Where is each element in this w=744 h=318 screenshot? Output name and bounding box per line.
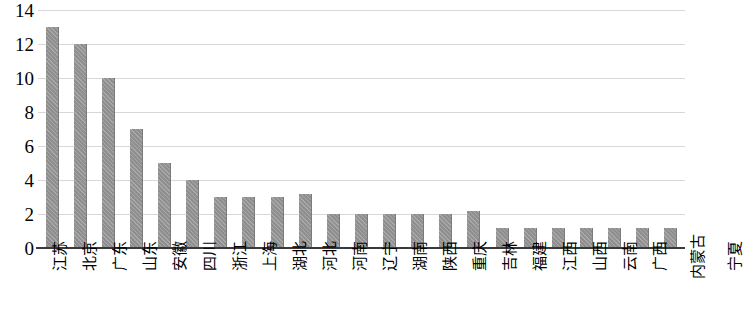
bar-slot [122, 10, 150, 248]
bar-slot [404, 10, 432, 248]
x-label-slot: 广东 [98, 252, 128, 318]
bar-slot [319, 10, 347, 248]
x-label-slot: 安徽 [158, 252, 188, 318]
bar-slot [544, 10, 572, 248]
x-axis-tick-label: 湖南 [413, 241, 428, 271]
bar-slot [376, 10, 404, 248]
bar-slot [572, 10, 600, 248]
x-axis-tick-label: 河南 [353, 241, 368, 271]
x-axis-tick-label: 宁夏 [728, 241, 743, 271]
bar [46, 27, 59, 248]
x-label-slot: 浙江 [218, 252, 248, 318]
x-label-slot: 云南 [608, 252, 638, 318]
bar [102, 78, 115, 248]
x-label-slot: 河北 [308, 252, 338, 318]
x-axis-tick-label: 山西 [593, 241, 608, 271]
x-label-slot: 陕西 [428, 252, 458, 318]
x-axis-tick-label: 湖北 [293, 241, 308, 271]
x-axis-tick-label: 上海 [263, 241, 278, 271]
bar-slot [207, 10, 235, 248]
bars-container [38, 10, 685, 248]
bar [74, 44, 87, 248]
x-label-slot: 内蒙古 [668, 252, 713, 318]
x-axis-tick-label: 安徽 [173, 241, 188, 271]
x-axis-labels: 江苏北京广东山东安徽四川浙江上海湖北河北河南辽宁湖南陕西重庆吉林福建江西山西云南… [38, 252, 685, 318]
y-axis-tick-label: 0 [25, 239, 35, 258]
x-label-slot: 江西 [548, 252, 578, 318]
x-label-slot: 上海 [248, 252, 278, 318]
x-label-slot: 吉林 [488, 252, 518, 318]
x-axis-tick-label: 广东 [113, 241, 128, 271]
x-label-slot: 北京 [68, 252, 98, 318]
x-label-slot: 山东 [128, 252, 158, 318]
bar-slot [151, 10, 179, 248]
y-axis-tick-label: 6 [25, 137, 35, 156]
x-label-slot: 福建 [518, 252, 548, 318]
bar-slot [179, 10, 207, 248]
x-axis-tick-label: 浙江 [233, 241, 248, 271]
x-label-slot: 江苏 [38, 252, 68, 318]
bar-slot [516, 10, 544, 248]
x-axis-tick-label: 江西 [563, 241, 578, 271]
bar-slot [347, 10, 375, 248]
x-label-slot: 湖南 [398, 252, 428, 318]
bar-slot [488, 10, 516, 248]
x-axis-tick-label: 河北 [323, 241, 338, 271]
y-axis-tick-label: 2 [25, 205, 35, 224]
x-axis-tick-label: 吉林 [503, 241, 518, 271]
y-axis-tick-label: 14 [15, 1, 34, 20]
x-axis-tick-label: 重庆 [473, 241, 488, 271]
bar [608, 228, 621, 248]
x-label-slot: 辽宁 [368, 252, 398, 318]
x-label-slot: 湖北 [278, 252, 308, 318]
bar-slot [94, 10, 122, 248]
y-axis: 02468101214 [0, 0, 34, 248]
bar-slot [263, 10, 291, 248]
x-axis-tick-label: 辽宁 [383, 241, 398, 271]
bar-slot [38, 10, 66, 248]
bar-slot [629, 10, 657, 248]
y-axis-tick-label: 4 [25, 171, 35, 190]
x-axis-tick-label: 云南 [623, 241, 638, 271]
x-label-slot: 四川 [188, 252, 218, 318]
bar-slot [657, 10, 685, 248]
x-axis-tick-label: 广西 [653, 241, 668, 271]
y-axis-tick-label: 10 [15, 69, 34, 88]
x-axis-tick-label: 四川 [203, 241, 218, 271]
x-label-slot: 广西 [638, 252, 668, 318]
x-label-slot: 宁夏 [713, 252, 743, 318]
x-axis-tick-label: 内蒙古 [691, 234, 706, 279]
bar-slot [235, 10, 263, 248]
x-label-slot: 重庆 [458, 252, 488, 318]
bar-slot [291, 10, 319, 248]
x-axis-tick-label: 山东 [143, 241, 158, 271]
x-label-slot: 山西 [578, 252, 608, 318]
bar [130, 129, 143, 248]
bar-slot [432, 10, 460, 248]
bar [158, 163, 171, 248]
x-axis-tick-label: 北京 [83, 241, 98, 271]
x-axis-tick-label: 陕西 [443, 241, 458, 271]
y-axis-tick-label: 12 [15, 35, 34, 54]
bar-slot [601, 10, 629, 248]
x-axis-tick-label: 江苏 [53, 241, 68, 271]
y-axis-tick-label: 8 [25, 103, 35, 122]
x-label-slot: 河南 [338, 252, 368, 318]
bar-slot [66, 10, 94, 248]
x-axis-tick-label: 福建 [533, 241, 548, 271]
bar [186, 180, 199, 248]
bar-slot [460, 10, 488, 248]
bar [299, 194, 312, 248]
